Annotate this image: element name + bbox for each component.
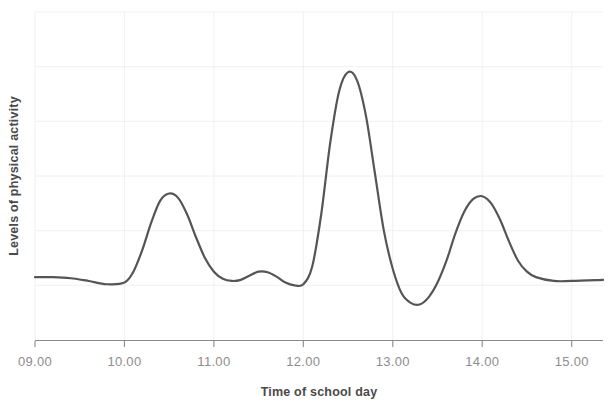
x-axis-tick-label: 10.00 (107, 354, 141, 369)
chart-container: 09.0010.0011.0012.0013.0014.0015.00 Time… (0, 0, 608, 405)
x-axis-tick-label: 14.00 (465, 354, 499, 369)
chart-background (0, 0, 608, 405)
activity-line-chart: 09.0010.0011.0012.0013.0014.0015.00 Time… (0, 0, 608, 405)
x-axis-tick-label: 12.00 (286, 354, 320, 369)
x-axis-tick-label: 13.00 (376, 354, 410, 369)
x-axis-tick-label: 09.00 (18, 354, 52, 369)
x-axis-tick-label: 15.00 (555, 354, 589, 369)
x-axis-title: Time of school day (261, 385, 378, 399)
x-axis-tick-label: 11.00 (197, 354, 230, 369)
y-axis-title: Levels of physical activity (7, 96, 21, 256)
